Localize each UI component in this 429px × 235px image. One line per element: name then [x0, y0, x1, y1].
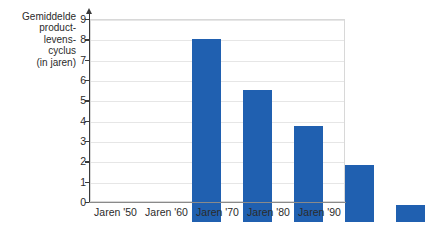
plot-area [90, 19, 345, 202]
x-tick-label: Jaren '70 [196, 206, 239, 218]
y-tick-label: 4 [72, 115, 86, 127]
x-tick-label: Jaren '80 [247, 206, 290, 218]
x-tick-label: Jaren '90 [298, 206, 341, 218]
y-tick-label: 6 [72, 74, 86, 86]
x-axis-line [89, 202, 346, 203]
bars-group [181, 39, 429, 222]
y-axis-line [89, 13, 90, 203]
y-tick-label: 2 [72, 155, 86, 167]
x-axis-labels: Jaren '50Jaren '60Jaren '70Jaren '80Jare… [90, 206, 345, 226]
bar [396, 205, 425, 222]
bar [345, 165, 374, 222]
y-tick-label: 3 [72, 135, 86, 147]
y-tick-label: 8 [72, 33, 86, 45]
x-tick-label: Jaren '50 [94, 206, 137, 218]
y-tick-label: 1 [72, 176, 86, 188]
y-tick-label: 5 [72, 94, 86, 106]
y-tick-label: 9 [72, 13, 86, 25]
y-tick-label: 7 [72, 54, 86, 66]
x-tick-label: Jaren '60 [145, 206, 188, 218]
bar [192, 39, 221, 222]
gridline [91, 20, 344, 21]
y-axis-arrow-icon [86, 8, 92, 14]
y-axis-ticks: 0123456789 [60, 0, 86, 235]
y-tick-label: 0 [72, 196, 86, 208]
